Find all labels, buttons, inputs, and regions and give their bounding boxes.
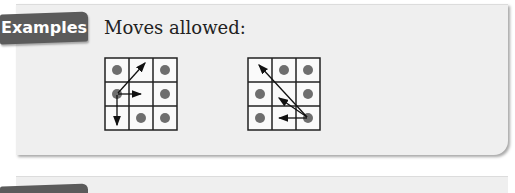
moves-allowed-heading: Moves allowed: — [104, 17, 246, 38]
next-panel — [16, 176, 508, 193]
left-move-diagram — [104, 57, 178, 131]
next-tab — [0, 183, 88, 193]
examples-tab-label: Examples — [1, 13, 87, 43]
examples-tab: Examples — [0, 11, 88, 44]
right-move-diagram — [247, 57, 321, 131]
